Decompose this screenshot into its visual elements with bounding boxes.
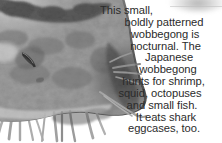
- caption-line-9: and small fish.: [97, 100, 221, 112]
- caption-line-2: boldly patterned: [97, 17, 221, 29]
- caption-line-8: squid, octopuses: [97, 88, 221, 100]
- wobbegong-caption-image: This small, boldly patterned wobbegong i…: [0, 0, 222, 143]
- caption-line-11: eggcases, too.: [97, 123, 221, 135]
- caption-text-block: This small, boldly patterned wobbegong i…: [97, 5, 221, 135]
- caption-line-3: wobbegong is: [97, 29, 221, 41]
